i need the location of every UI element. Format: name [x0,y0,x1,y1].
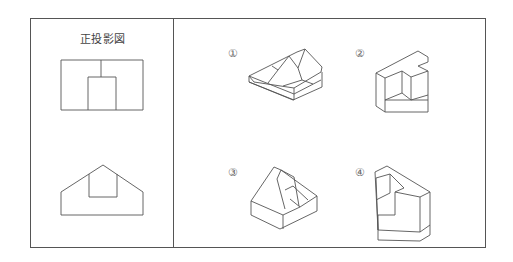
option-2-drawing [376,51,428,112]
front-view [61,60,143,110]
drawings-layer [0,0,513,262]
option-3-drawing [251,167,317,229]
top-view [61,165,143,215]
option-1-drawing [249,49,322,100]
option-4-drawing [375,166,430,241]
